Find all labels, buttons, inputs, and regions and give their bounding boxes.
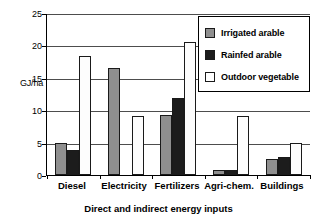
x-category-label-agri-chem: Agri-chem. [204,180,254,191]
y-axis-tick-labels: 25 20 15 10 5 0 [14,0,42,224]
x-tick-mark [310,175,311,179]
legend-item-irrigated-arable: Irrigated arable [205,22,309,44]
legend-item-rainfed-arable: Rainfed arable [205,44,309,66]
y-tick-mark [42,176,46,177]
x-tick-mark [205,175,206,179]
bar-irrigated-arable [55,143,67,175]
bar-group-diesel [47,14,100,175]
bar-rainfed-arable [172,98,184,175]
bar-rainfed-arable [225,170,237,175]
y-tick-label: 20 [32,41,42,51]
y-tick-label: 25 [32,9,42,19]
legend-swatch-icon [205,72,215,82]
bar-outdoor-vegetable [237,116,249,175]
x-tick-mark [257,175,258,179]
x-category-label-electricity: Electricity [101,180,146,191]
x-category-label-diesel: Diesel [58,180,86,191]
bar-chart: 25 20 15 10 5 0 GJ/ha [0,0,317,224]
bar-rainfed-arable [67,150,79,175]
x-tick-mark [152,175,153,179]
x-tick-mark [100,175,101,179]
x-category-label-buildings: Buildings [260,180,303,191]
bar-outdoor-vegetable [79,56,91,175]
bar-outdoor-vegetable [184,42,196,176]
x-tick-mark [47,175,48,179]
bar-group-electricity [100,14,153,175]
bar-irrigated-arable [266,159,278,175]
legend-label: Irrigated arable [221,28,284,38]
bar-irrigated-arable [160,115,172,175]
bar-irrigated-arable [108,68,120,175]
bar-group-fertilizers [152,14,205,175]
bar-outdoor-vegetable [290,143,302,175]
legend-swatch-icon [205,50,215,60]
legend-label: Outdoor vegetable [221,72,299,82]
y-tick-label: 10 [32,106,42,116]
y-axis-label: GJ/ha [20,78,43,88]
legend-item-outdoor-vegetable: Outdoor vegetable [205,66,309,88]
legend-swatch-icon [205,28,215,38]
legend: Irrigated arable Rainfed arable Outdoor … [198,16,310,92]
legend-label: Rainfed arable [221,50,282,60]
bar-irrigated-arable [213,170,225,175]
bar-rainfed-arable [278,157,290,175]
x-axis-title: Direct and indirect energy inputs [0,203,317,214]
bar-outdoor-vegetable [132,116,144,175]
x-category-label-fertilizers: Fertilizers [155,180,200,191]
